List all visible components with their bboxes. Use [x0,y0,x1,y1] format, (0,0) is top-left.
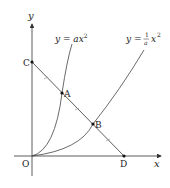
diagram-canvas: y x O C A B D y = ax2 y = 1 a x 2 [0,0,170,188]
curve-shallow [32,50,144,156]
point-c [30,60,33,63]
svg-text:2: 2 [157,31,161,38]
svg-text:y = ax2: y = ax2 [54,32,88,44]
svg-text:y =: y = [125,34,142,44]
label-d: D [120,159,127,169]
y-axis-label: y [27,10,34,21]
curve-steep [32,44,72,156]
line-cd [32,62,124,156]
origin-label: O [22,159,29,169]
label-c: C [23,58,30,68]
curve-shallow-label: y = 1 a x 2 [125,31,161,46]
curve-steep-label: y = ax2 [54,32,88,44]
svg-text:x: x [151,34,156,44]
label-b: B [95,120,102,130]
point-d [122,154,125,157]
label-a: A [63,89,71,99]
svg-text:a: a [144,39,148,46]
svg-text:1: 1 [145,31,149,38]
x-axis-label: x [154,158,160,169]
